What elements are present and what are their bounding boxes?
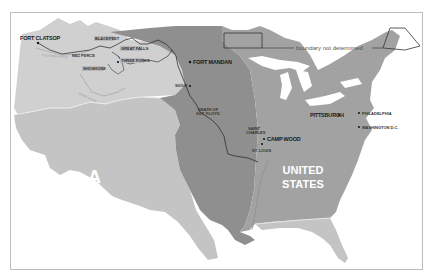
place-label: WASHINGTON D.C.	[362, 125, 399, 130]
sioux-marker	[189, 85, 191, 87]
map-svg: FORT CLATSOP BLACKFEET GREAT FALLS THREE…	[0, 0, 431, 275]
florida-region	[255, 218, 348, 263]
region-label-us-line1: UNITED	[283, 164, 324, 176]
place-label: ST. LOUIS	[252, 148, 271, 153]
place-label: THREE FORKS	[121, 58, 150, 63]
st-louis-marker	[261, 143, 263, 145]
boundary-annotation: boundary not determined	[296, 45, 363, 51]
place-label: CAMP WOOD	[267, 136, 301, 142]
place-label: FORT MANDAN	[193, 59, 232, 65]
place-label: SHOSHONE	[83, 66, 106, 71]
region-label-west: A	[88, 167, 101, 187]
place-label: SGT. FLOYD	[196, 111, 220, 116]
camp-wood-marker	[263, 138, 265, 140]
place-label: GREAT FALLS	[121, 46, 149, 51]
washington-dc-marker	[358, 126, 360, 128]
place-label: SIOUX	[175, 83, 188, 88]
place-label: NEZ PERCE	[72, 53, 95, 58]
region-label-us-line2: STATES	[282, 178, 324, 190]
three-forks-marker	[117, 61, 119, 63]
place-label: PHILADELPHIA	[362, 111, 392, 116]
fort-mandan-marker	[189, 61, 191, 63]
place-label: PITTSBURGH	[310, 112, 344, 118]
place-label: FORT CLATSOP	[20, 35, 60, 41]
fort-clatsop-marker	[37, 42, 39, 44]
place-label: CHARLES	[246, 130, 266, 135]
philadelphia-marker	[358, 112, 360, 114]
place-label: BLACKFEET	[95, 36, 120, 41]
